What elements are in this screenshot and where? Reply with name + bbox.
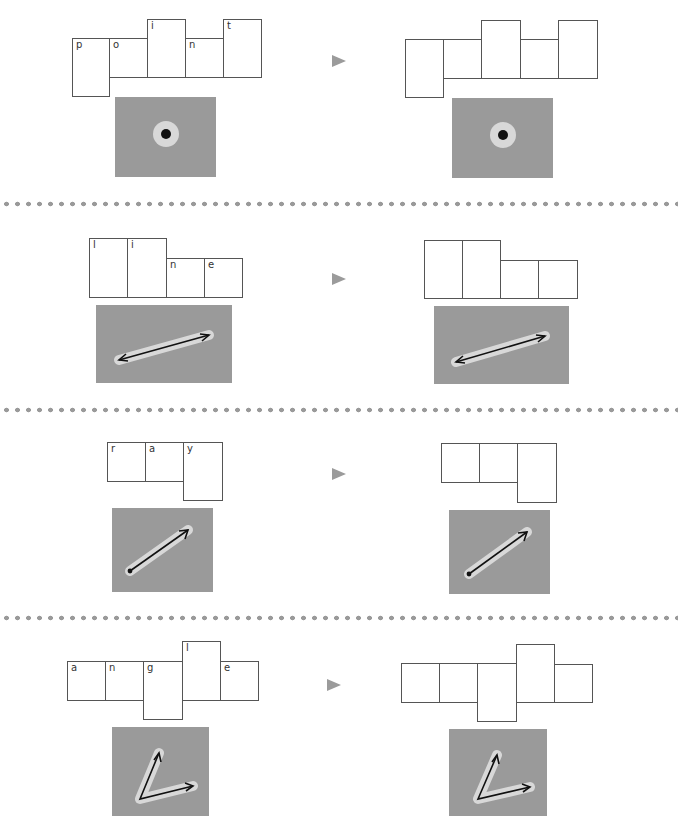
empty-box[interactable] bbox=[405, 39, 444, 98]
letter-box[interactable]: n bbox=[105, 661, 144, 701]
play-arrow-icon bbox=[332, 468, 346, 480]
letter: l bbox=[93, 239, 96, 251]
letter: e bbox=[224, 662, 230, 674]
empty-box[interactable] bbox=[500, 260, 539, 299]
letter: y bbox=[187, 443, 193, 455]
dotted-separator bbox=[0, 201, 678, 207]
dotted-separator bbox=[0, 407, 678, 413]
empty-box[interactable] bbox=[439, 663, 478, 703]
empty-box[interactable] bbox=[441, 443, 480, 483]
empty-box[interactable] bbox=[477, 663, 517, 722]
play-arrow-icon bbox=[332, 273, 346, 285]
empty-box[interactable] bbox=[401, 663, 440, 703]
line-double-arrow-icon bbox=[434, 306, 569, 384]
letter-box[interactable]: t bbox=[223, 19, 262, 78]
letter: o bbox=[113, 39, 119, 51]
letter: l bbox=[186, 642, 189, 654]
letter-box[interactable]: r bbox=[107, 442, 146, 482]
picture-line bbox=[434, 306, 569, 384]
ray-arrow-icon bbox=[449, 510, 550, 594]
letter-box[interactable]: l bbox=[182, 641, 221, 701]
empty-box[interactable] bbox=[479, 443, 518, 483]
letter: g bbox=[147, 662, 153, 674]
letter-box[interactable]: e bbox=[220, 661, 259, 701]
angle-icon bbox=[449, 729, 547, 816]
empty-box[interactable] bbox=[443, 39, 482, 79]
point-dot-icon bbox=[115, 97, 216, 177]
letter: i bbox=[151, 20, 154, 32]
play-arrow-icon bbox=[327, 679, 341, 691]
dotted-separator bbox=[0, 615, 678, 621]
picture-ray bbox=[449, 510, 550, 594]
letter: n bbox=[109, 662, 115, 674]
empty-box[interactable] bbox=[538, 260, 578, 299]
letter-box[interactable]: i bbox=[147, 19, 186, 78]
play-arrow-icon bbox=[332, 55, 346, 67]
picture-ray bbox=[112, 508, 213, 592]
letter-box[interactable]: l bbox=[89, 238, 128, 298]
line-double-arrow-icon bbox=[96, 305, 232, 383]
picture-point bbox=[452, 98, 553, 178]
picture-point bbox=[115, 97, 216, 177]
picture-angle bbox=[112, 727, 209, 816]
letter-box[interactable]: n bbox=[185, 38, 224, 78]
letter: n bbox=[189, 39, 195, 51]
letter-box[interactable]: e bbox=[204, 258, 243, 298]
empty-box[interactable] bbox=[517, 443, 557, 503]
empty-box[interactable] bbox=[516, 644, 555, 703]
empty-box[interactable] bbox=[462, 240, 501, 299]
letter-box[interactable]: a bbox=[145, 442, 184, 482]
letter: r bbox=[111, 443, 115, 455]
letter: t bbox=[227, 20, 231, 32]
point-dot-icon bbox=[452, 98, 553, 178]
letter-box[interactable]: y bbox=[183, 442, 223, 501]
empty-box[interactable] bbox=[520, 39, 559, 79]
letter-box[interactable]: g bbox=[143, 661, 183, 720]
letter-box[interactable]: i bbox=[127, 238, 167, 298]
letter: p bbox=[76, 39, 82, 51]
letter: a bbox=[149, 443, 155, 455]
empty-box[interactable] bbox=[554, 664, 593, 703]
picture-line bbox=[96, 305, 232, 383]
letter-box[interactable]: p bbox=[72, 38, 110, 97]
empty-box[interactable] bbox=[558, 20, 598, 79]
letter: a bbox=[71, 662, 77, 674]
picture-angle bbox=[449, 729, 547, 816]
empty-box[interactable] bbox=[481, 20, 521, 79]
letter-box[interactable]: o bbox=[109, 38, 148, 78]
letter-box[interactable]: a bbox=[67, 661, 106, 701]
angle-icon bbox=[112, 727, 209, 816]
letter-box[interactable]: n bbox=[166, 258, 205, 298]
empty-box[interactable] bbox=[424, 240, 463, 299]
ray-arrow-icon bbox=[112, 508, 213, 592]
letter: n bbox=[170, 259, 176, 271]
letter: e bbox=[208, 259, 214, 271]
letter: i bbox=[131, 239, 134, 251]
